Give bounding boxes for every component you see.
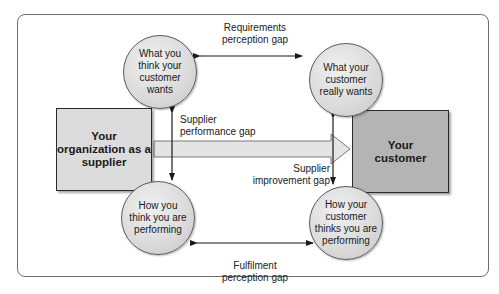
actual-customer-wants-node: What your customer really wants xyxy=(309,43,383,117)
customer-label: Your customer xyxy=(371,139,431,165)
perceived-performance-node: How you think you are performing xyxy=(121,181,195,255)
performance-gap-label: Supplier performance gap xyxy=(180,114,256,138)
actual-customer-wants-label: What your customer really wants xyxy=(315,62,377,98)
requirements-gap-label: Requirements perception gap xyxy=(205,22,305,46)
perceived-performance-label: How you think you are performing xyxy=(127,200,189,236)
perceived-customer-wants-label: What you think your customer wants xyxy=(132,48,188,96)
improvement-gap-label: Supplier improvement gap xyxy=(242,163,330,187)
customer-perceived-performance-label: How your customer thinks you are perform… xyxy=(313,199,379,247)
customer-perceived-performance-node: How your customer thinks you are perform… xyxy=(309,186,383,260)
supplier-to-customer-arrow xyxy=(154,134,350,164)
fulfilment-gap-label: Fulfilment perception gap xyxy=(205,260,305,284)
supplier-organization-box: Your organization as a supplier xyxy=(56,108,152,191)
supplier-organization-label: Your organization as a supplier xyxy=(57,130,151,169)
customer-box: Your customer xyxy=(352,110,449,193)
perceived-customer-wants-node: What you think your customer wants xyxy=(123,35,197,109)
